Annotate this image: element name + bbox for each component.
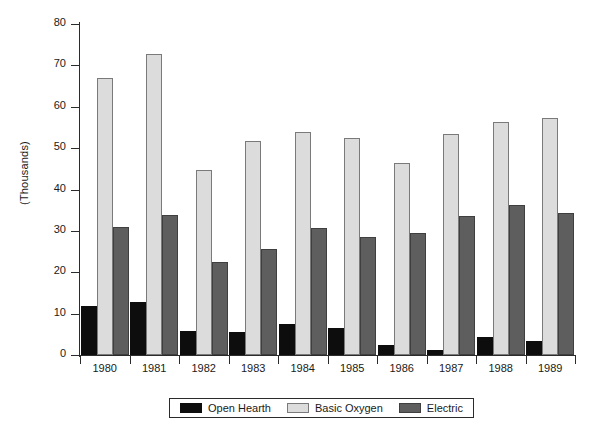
bar bbox=[97, 78, 113, 355]
bar-group bbox=[378, 24, 426, 355]
legend-item[interactable]: Basic Oxygen bbox=[287, 402, 383, 414]
bar bbox=[410, 233, 426, 355]
bar bbox=[162, 215, 178, 355]
bar-group bbox=[427, 24, 475, 355]
bar-group bbox=[279, 24, 327, 355]
bar bbox=[443, 134, 459, 355]
bar bbox=[261, 249, 277, 355]
x-axis-tick bbox=[130, 356, 131, 364]
bar bbox=[180, 331, 196, 355]
y-axis-tick: 10 bbox=[71, 314, 80, 315]
bar-group bbox=[526, 24, 574, 355]
y-axis-tick: 0 bbox=[71, 355, 80, 356]
bar-group bbox=[229, 24, 277, 355]
chart-legend: Open HearthBasic OxygenElectric bbox=[169, 398, 474, 418]
bar bbox=[81, 306, 97, 355]
x-axis-tick bbox=[328, 356, 329, 364]
legend-label: Electric bbox=[427, 402, 463, 414]
bar bbox=[279, 324, 295, 355]
bar bbox=[196, 170, 212, 355]
bar bbox=[113, 227, 129, 355]
plot-area: 01020304050607080 bbox=[80, 24, 575, 355]
x-axis-tick bbox=[427, 356, 428, 364]
x-axis-tick bbox=[575, 356, 576, 364]
bar-group bbox=[81, 24, 129, 355]
bar bbox=[427, 350, 443, 355]
bar bbox=[477, 337, 493, 355]
y-axis-tick-label: 0 bbox=[60, 347, 66, 359]
legend-swatch bbox=[180, 403, 202, 413]
y-axis-tick: 40 bbox=[71, 190, 80, 191]
bar-group bbox=[328, 24, 376, 355]
bar bbox=[459, 216, 475, 355]
bar bbox=[344, 138, 360, 355]
x-axis-tick bbox=[476, 356, 477, 364]
y-axis-tick: 70 bbox=[71, 65, 80, 66]
y-axis-tick: 20 bbox=[71, 272, 80, 273]
bar bbox=[526, 341, 542, 355]
x-axis-tick bbox=[229, 356, 230, 364]
bar bbox=[360, 237, 376, 355]
bar bbox=[328, 328, 344, 355]
bar-group bbox=[130, 24, 178, 355]
bar bbox=[130, 302, 146, 355]
bar-group bbox=[180, 24, 228, 355]
bar bbox=[295, 132, 311, 355]
bar bbox=[509, 205, 525, 355]
x-axis-tick bbox=[179, 356, 180, 364]
legend-swatch bbox=[399, 403, 421, 413]
bar bbox=[493, 122, 509, 355]
y-axis-tick-label: 50 bbox=[54, 140, 66, 152]
x-axis-tick bbox=[526, 356, 527, 364]
y-axis-tick-label: 40 bbox=[54, 182, 66, 194]
y-axis-tick-label: 30 bbox=[54, 223, 66, 235]
legend-label: Basic Oxygen bbox=[315, 402, 383, 414]
x-axis-tick bbox=[377, 356, 378, 364]
legend-swatch bbox=[287, 403, 309, 413]
y-axis-tick: 80 bbox=[71, 24, 80, 25]
bar bbox=[558, 213, 574, 355]
y-axis-tick-label: 60 bbox=[54, 99, 66, 111]
y-axis-label: (Thousands) bbox=[18, 123, 30, 223]
bar bbox=[311, 228, 327, 355]
bar bbox=[378, 345, 394, 355]
bar bbox=[245, 141, 261, 355]
bar bbox=[146, 54, 162, 355]
y-axis-tick: 30 bbox=[71, 231, 80, 232]
y-axis-tick: 50 bbox=[71, 148, 80, 149]
x-axis-tick bbox=[278, 356, 279, 364]
bar-group bbox=[477, 24, 525, 355]
bar-chart: (Thousands) 01020304050607080 Open Heart… bbox=[0, 0, 597, 432]
x-axis-tick bbox=[80, 356, 81, 364]
y-axis-tick-label: 80 bbox=[54, 16, 66, 28]
legend-item[interactable]: Open Hearth bbox=[180, 402, 271, 414]
y-axis-tick-label: 10 bbox=[54, 306, 66, 318]
legend-item[interactable]: Electric bbox=[399, 402, 463, 414]
bar bbox=[542, 118, 558, 355]
bar bbox=[229, 332, 245, 355]
bar bbox=[212, 262, 228, 356]
y-axis-tick: 60 bbox=[71, 107, 80, 108]
x-axis-tick-label: 1989 bbox=[520, 362, 580, 374]
legend-label: Open Hearth bbox=[208, 402, 271, 414]
y-axis-tick-label: 20 bbox=[54, 264, 66, 276]
bar bbox=[394, 163, 410, 355]
y-axis-tick-label: 70 bbox=[54, 57, 66, 69]
